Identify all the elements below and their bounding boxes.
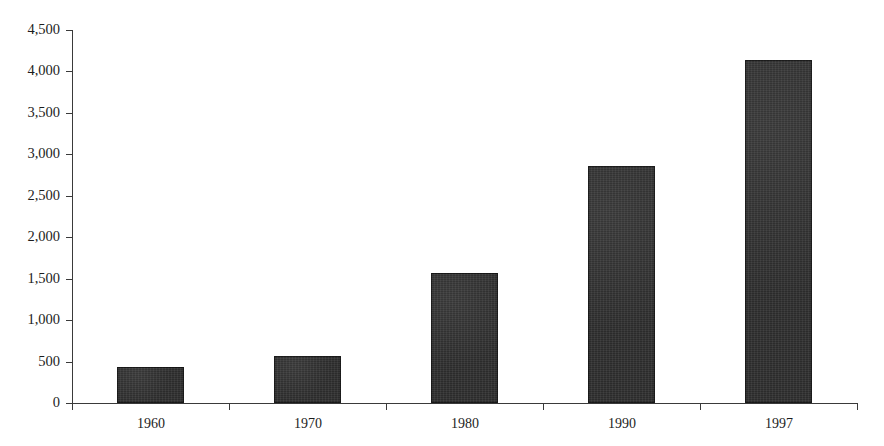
y-axis-tick-label: 2,500 [0,187,60,204]
bar [117,367,184,403]
x-axis-category-label: 1997 [719,416,839,432]
x-axis-tick [700,403,701,410]
bar-chart: 05001,0001,5002,0002,5003,0003,5004,0004… [0,0,884,446]
x-axis-tick [857,403,858,410]
y-axis-tick-label: 1,000 [0,311,60,328]
x-axis-category-label: 1980 [405,416,525,432]
x-axis-category-label: 1990 [562,416,682,432]
y-axis-tick-label: 3,000 [0,145,60,162]
x-axis-tick [72,403,73,410]
x-axis-tick [386,403,387,410]
y-axis-tick-label: 500 [0,353,60,370]
y-axis-tick-label: 1,500 [0,270,60,287]
x-axis-tick [543,403,544,410]
bar [431,273,498,403]
y-axis-tick-label: 4,000 [0,62,60,79]
x-axis-tick [229,403,230,410]
plot-area [72,30,857,403]
x-axis-line [72,403,857,404]
y-axis-tick-label: 3,500 [0,104,60,121]
y-axis-tick-label: 0 [0,394,60,411]
x-axis-category-label: 1960 [91,416,211,432]
y-axis-tick-label: 4,500 [0,21,60,38]
x-axis-category-label: 1970 [248,416,368,432]
bar [588,166,655,403]
y-axis-tick-label: 2,000 [0,228,60,245]
bar [745,60,812,403]
bar [274,356,341,403]
